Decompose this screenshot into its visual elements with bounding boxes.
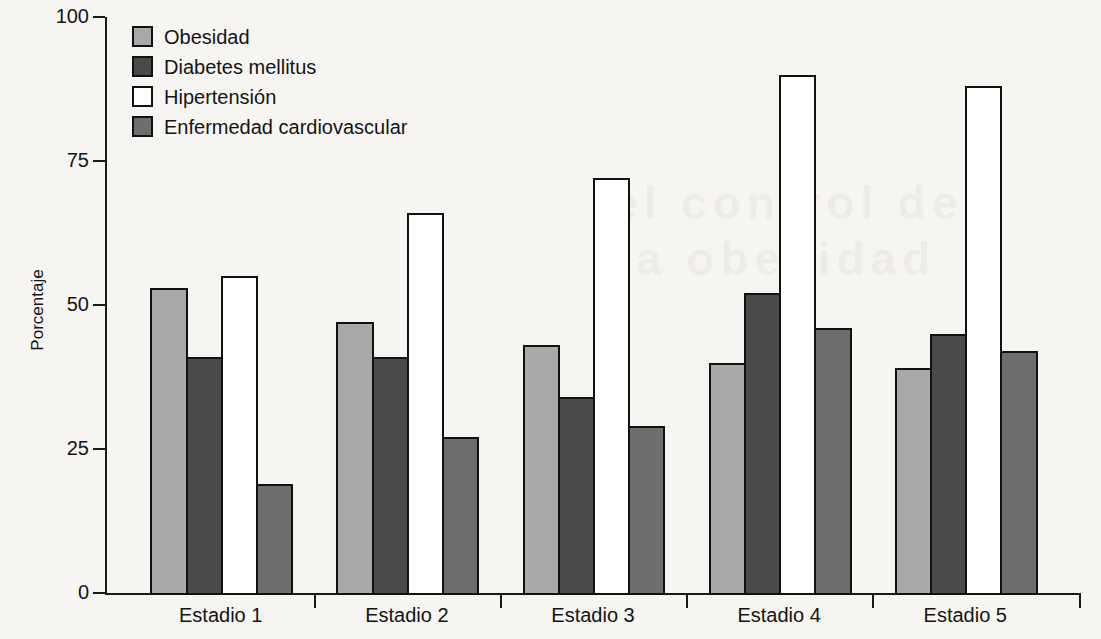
bar <box>442 437 479 595</box>
legend-swatch-icon <box>132 56 153 77</box>
legend-swatch-icon <box>132 116 153 137</box>
legend-label: Enfermedad cardiovascular <box>164 117 407 137</box>
category-label: Estadio 4 <box>685 604 874 627</box>
category-label: Estadio 1 <box>126 604 315 627</box>
bar <box>336 322 373 595</box>
legend-swatch-icon <box>132 26 153 47</box>
bar <box>372 357 409 595</box>
legend-swatch-icon <box>132 86 153 107</box>
legend-item: Diabetes mellitus <box>132 56 407 77</box>
category-label: Estadio 2 <box>312 604 501 627</box>
bar <box>744 293 781 595</box>
bar-chart: el control de a obesidad Porcentaje 0255… <box>0 0 1101 639</box>
bar <box>256 484 293 595</box>
chart-legend: ObesidadDiabetes mellitusHipertensiónEnf… <box>132 26 407 137</box>
legend-label: Diabetes mellitus <box>164 57 316 77</box>
legend-item: Hipertensión <box>132 86 407 107</box>
category-label: Estadio 5 <box>871 604 1060 627</box>
bar <box>779 75 816 595</box>
bar <box>628 426 665 595</box>
bar <box>593 178 630 595</box>
bar <box>895 368 932 595</box>
legend-item: Obesidad <box>132 26 407 47</box>
bar <box>709 363 746 595</box>
bar <box>930 334 967 595</box>
bar <box>965 86 1002 595</box>
bar <box>558 397 595 595</box>
legend-item: Enfermedad cardiovascular <box>132 116 407 137</box>
bar <box>186 357 223 595</box>
legend-label: Hipertensión <box>164 87 276 107</box>
bar <box>814 328 851 595</box>
bar <box>221 276 258 595</box>
category-label: Estadio 3 <box>499 604 688 627</box>
legend-label: Obesidad <box>164 27 250 47</box>
bar <box>407 213 444 595</box>
bar <box>1000 351 1037 595</box>
bar <box>150 288 187 595</box>
bar <box>523 345 560 595</box>
